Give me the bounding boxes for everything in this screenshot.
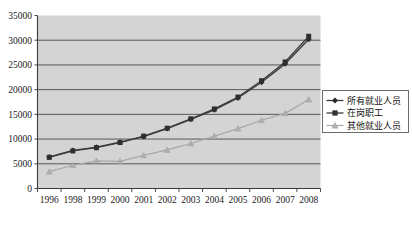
x-tick-label: 2005 <box>228 195 247 205</box>
x-tick-label: 1996 <box>40 195 59 205</box>
x-tick-label: 1998 <box>63 195 82 205</box>
x-tick-label: 2002 <box>158 195 177 205</box>
y-tick-label: 25000 <box>8 60 32 70</box>
y-tick-label: 10000 <box>8 134 32 144</box>
x-tick-label: 2000 <box>111 195 130 205</box>
x-tick-label: 2004 <box>205 195 224 205</box>
x-tick-label: 2006 <box>252 195 271 205</box>
marker-square <box>332 110 337 115</box>
chart-canvas: 05000100001500020000250003000035000 1996… <box>0 0 412 227</box>
marker-square <box>212 106 217 111</box>
x-tick-label: 2003 <box>181 195 200 205</box>
y-tick-label: 20000 <box>8 85 32 95</box>
x-tick-label: 1999 <box>87 195 106 205</box>
legend-label: 所有就业人员 <box>347 95 401 106</box>
marker-square <box>141 134 146 139</box>
y-tick-label: 30000 <box>8 36 32 46</box>
marker-square <box>47 155 52 160</box>
marker-square <box>235 95 240 100</box>
marker-square <box>259 78 264 83</box>
marker-square <box>188 116 193 121</box>
x-tick-label: 2008 <box>299 195 318 205</box>
y-tick-label: 0 <box>27 184 32 194</box>
marker-square <box>306 34 311 39</box>
marker-square <box>70 148 75 153</box>
marker-square <box>165 126 170 131</box>
x-tick-label: 2007 <box>276 195 295 205</box>
marker-square <box>118 140 123 145</box>
line-chart: 05000100001500020000250003000035000 1996… <box>0 0 412 227</box>
marker-square <box>283 59 288 64</box>
plot-area-background <box>38 16 321 189</box>
y-tick-label: 5000 <box>13 159 32 169</box>
legend-label: 其他就业人员 <box>347 120 401 131</box>
y-tick-label: 35000 <box>8 11 32 21</box>
legend-label: 在岗职工 <box>347 107 383 118</box>
y-tick-label: 15000 <box>8 110 32 120</box>
x-tick-label: 2001 <box>134 195 153 205</box>
chart-legend: 所有就业人员在岗职工其他就业人员 <box>323 91 409 133</box>
marker-square <box>94 145 99 150</box>
